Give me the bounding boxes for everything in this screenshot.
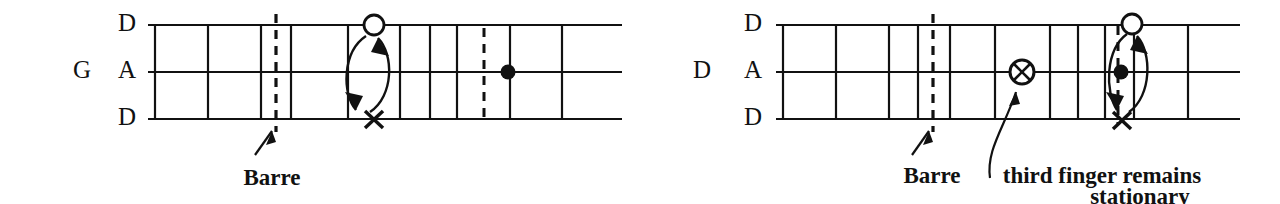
string-label-d-high-left: D: [118, 9, 136, 36]
string-label-d-low-right: D: [744, 103, 762, 130]
marker-filled-dot-left: [501, 65, 516, 80]
string-label-a-right: A: [744, 56, 762, 83]
string-label-a-left: A: [118, 56, 136, 83]
marker-filled-dot-right: [1114, 65, 1129, 80]
barre-label-left: Barre: [243, 165, 300, 190]
tuning-label-left: G: [73, 56, 91, 83]
string-label-d-low-left: D: [118, 103, 136, 130]
marker-open-circle-right: [1122, 14, 1142, 34]
tuning-label-right: D: [693, 56, 711, 83]
marker-open-circle-left: [364, 15, 384, 35]
caption-line-2-right: stationary: [1090, 184, 1190, 204]
fretboard-diagram-right: D D A D: [640, 0, 1280, 204]
string-label-d-high-right: D: [744, 9, 762, 36]
fretboard-diagram-left: G D A D: [0, 0, 640, 204]
figure-canvas: G D A D: [0, 0, 1280, 204]
barre-label-right: Barre: [903, 163, 960, 188]
